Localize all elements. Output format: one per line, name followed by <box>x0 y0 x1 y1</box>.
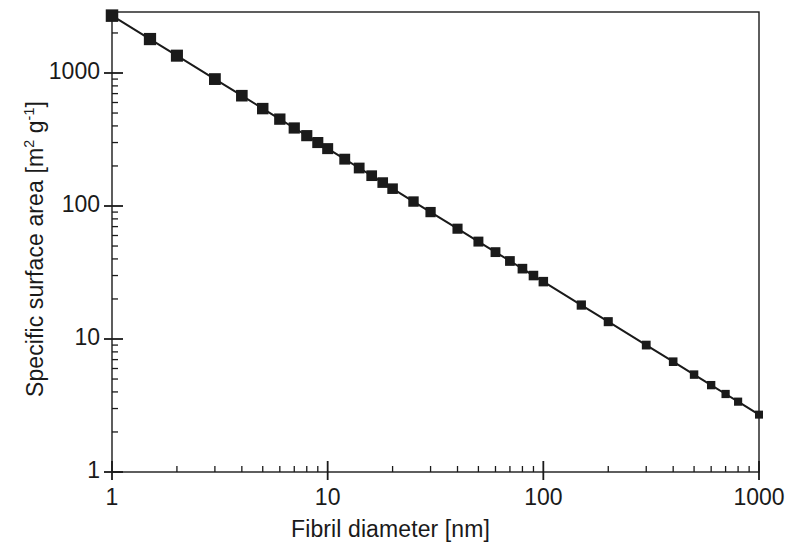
major-tick-marks <box>104 73 759 480</box>
data-point-marker <box>312 137 323 148</box>
data-point-marker <box>171 50 183 62</box>
data-point-marker <box>642 341 651 350</box>
data-point-marker <box>721 390 729 398</box>
data-point-marker <box>377 177 388 188</box>
data-point-marker <box>690 370 698 378</box>
data-point-marker <box>408 196 418 206</box>
x-tick-label: 1000 <box>699 484 789 511</box>
data-point-marker <box>491 247 501 257</box>
data-point-marker <box>366 170 377 181</box>
x-tick-label: 100 <box>483 484 603 511</box>
data-point-marker <box>257 103 268 114</box>
data-point-marker <box>604 317 613 326</box>
data-point-marker <box>322 143 333 154</box>
y-axis-title: Specific surface area [m2 g-1] <box>22 101 49 397</box>
data-point-marker <box>577 300 586 309</box>
minor-tick-marks <box>112 33 749 472</box>
y-axis-title-exponent-mass: -1 <box>21 108 37 121</box>
data-point-marker <box>144 33 156 45</box>
data-point-marker <box>452 224 462 234</box>
x-tick-label: 10 <box>268 484 388 511</box>
data-point-marker <box>505 256 515 266</box>
data-point-marker <box>209 73 221 85</box>
data-point-marker <box>707 381 715 389</box>
x-tick-label: 1 <box>52 484 172 511</box>
y-axis-title-wrapper: Specific surface area [m2 g-1] <box>22 0 56 499</box>
x-axis-title: Fibril diameter [nm] <box>0 516 781 543</box>
data-point-marker <box>734 398 742 406</box>
data-point-marker <box>339 154 350 165</box>
y-axis-title-middle: g <box>22 120 48 139</box>
data-point-marker <box>473 237 483 247</box>
data-point-marker <box>529 271 539 281</box>
data-point-marker <box>539 277 549 287</box>
data-point-marker <box>518 264 528 274</box>
data-point-marker <box>289 122 300 133</box>
y-axis-title-prefix: Specific surface area [m <box>22 148 48 397</box>
data-point-marker <box>387 183 398 194</box>
data-point-marker <box>425 207 435 217</box>
data-point-marker <box>274 113 285 124</box>
data-point-marker <box>755 411 763 419</box>
data-point-marker <box>236 90 248 102</box>
y-axis-title-suffix: ] <box>22 101 48 108</box>
data-point-marker <box>106 9 119 22</box>
data-point-marker <box>354 163 365 174</box>
y-axis-title-exponent-area: 2 <box>21 140 37 148</box>
data-point-marker <box>669 357 678 366</box>
data-point-marker <box>301 130 312 141</box>
